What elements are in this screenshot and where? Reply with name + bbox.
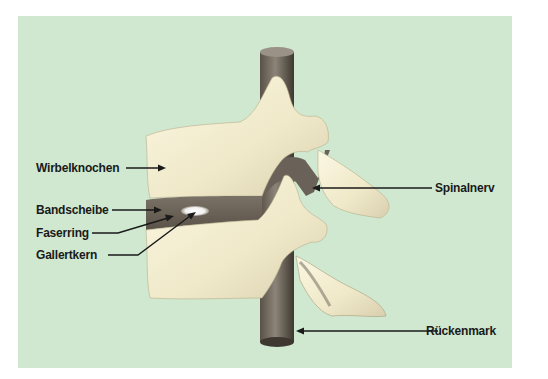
nucleus-pulposus — [181, 206, 209, 216]
label-wirbelknochen: Wirbelknochen — [36, 161, 119, 175]
label-faserring: Faserring — [36, 226, 89, 240]
label-spinalnerv: Spinalnerv — [435, 181, 494, 195]
upper-transverse-process — [318, 150, 389, 218]
label-bandscheibe: Bandscheibe — [36, 203, 109, 217]
lower-spinous-process — [296, 256, 386, 317]
label-gallertkern: Gallertkern — [36, 248, 97, 262]
label-rueckenmark: Rückenmark — [426, 324, 496, 338]
